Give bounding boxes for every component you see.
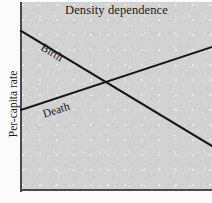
series-layer: [0, 0, 212, 203]
chart-title: Density dependence: [21, 3, 212, 18]
y-axis-label: Per-capita rate: [7, 49, 19, 159]
density-dependence-chart: Density dependence Per-capita rate Birth…: [0, 0, 212, 203]
